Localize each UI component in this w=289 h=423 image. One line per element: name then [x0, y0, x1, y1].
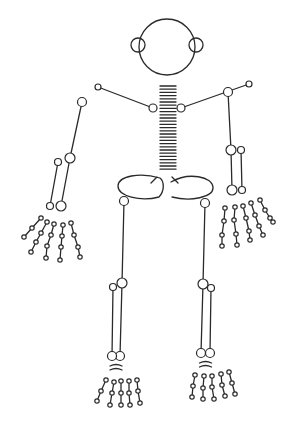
left-toe-joint-icon	[138, 401, 142, 405]
right-finger-joint-icon	[248, 238, 252, 242]
left-toe-joint-icon	[110, 391, 114, 395]
right-wrist-joint-icon	[227, 185, 237, 195]
left-toe-joint-icon	[95, 399, 99, 403]
left-finger-joint-icon	[30, 226, 34, 230]
right-toe-joint-icon	[220, 383, 224, 387]
right-finger-joint-icon	[258, 198, 262, 202]
right-finger-joint-icon	[261, 233, 265, 237]
right-finger-joint-icon	[233, 205, 237, 209]
right-ankle-joint-icon	[206, 349, 215, 358]
left-toe-joint-icon	[135, 378, 139, 382]
right-finger-joint-icon	[257, 224, 261, 228]
right-toe-joint-icon	[230, 381, 234, 385]
left-finger-joint-icon	[45, 244, 49, 248]
left-finger-joint-icon	[45, 220, 49, 224]
right-finger-joint-icon	[220, 233, 224, 237]
left-finger-joint-icon	[39, 231, 43, 235]
right-fibula	[210, 288, 211, 353]
right-toe-joint-icon	[191, 384, 195, 388]
left-finger-joint-icon	[72, 233, 76, 237]
right-radius	[231, 150, 232, 190]
right-finger-joint-icon	[271, 220, 275, 224]
right-finger-joint-icon	[220, 244, 224, 248]
right-finger-joint-icon	[253, 213, 257, 217]
right-finger-joint-icon	[244, 216, 248, 220]
right-ankle-joint-icon	[197, 349, 206, 358]
right-finger-joint-icon	[263, 208, 267, 212]
skeleton-drawing	[0, 0, 289, 423]
left-fibula	[112, 287, 113, 356]
ear-circle	[189, 38, 203, 52]
right-forearm-joint-icon	[238, 147, 245, 154]
left-ulna	[61, 158, 70, 206]
left-femur	[122, 201, 124, 283]
left-tibia	[120, 283, 122, 356]
left-finger-joint-icon	[52, 222, 56, 226]
pelvis	[118, 175, 213, 199]
left-finger-joint-icon	[61, 223, 65, 227]
right-toe-joint-icon	[219, 372, 223, 376]
right-upper-arm-joint-icon	[224, 88, 233, 97]
left-ankle-joint-icon	[108, 352, 117, 361]
left-finger-joint-icon	[69, 221, 73, 225]
left-finger-joint-icon	[34, 240, 38, 244]
right-humerus	[228, 92, 231, 150]
ears	[131, 38, 203, 52]
left-toe-joint-icon	[119, 403, 123, 407]
right-tarsal-arcs	[200, 362, 212, 368]
left-finger-joint-icon	[49, 233, 53, 237]
left-toe-joint-icon	[104, 378, 108, 382]
pelvis-right-lobe	[171, 176, 213, 199]
right-knee-joint-icon	[198, 279, 208, 289]
left-tarsal-arcs	[110, 365, 122, 371]
limbs	[22, 81, 275, 407]
right-shoulder-joint-icon	[246, 81, 252, 87]
right-clavicle-joint-icon	[177, 104, 185, 112]
right-finger-joint-icon	[223, 206, 227, 210]
left-wrist-joint-icon	[47, 203, 54, 210]
right-toe-joint-icon	[193, 373, 197, 377]
left-toe-joint-icon	[119, 391, 123, 395]
right-femur	[203, 203, 205, 284]
right-finger-joint-icon	[222, 219, 226, 223]
left-upper-arm-joint-icon	[78, 98, 87, 107]
left-radius	[50, 162, 58, 206]
skull-circle	[139, 19, 195, 75]
right-tibia	[201, 284, 203, 353]
left-fibula-joint-icon	[110, 284, 117, 291]
left-shoulder-joint-icon	[95, 84, 101, 90]
left-finger-joint-icon	[59, 245, 63, 249]
right-toe-joint-icon	[227, 370, 231, 374]
left-forearm-joint-icon	[55, 159, 62, 166]
left-wrist-joint-icon	[56, 201, 66, 211]
right-finger-joint-icon	[249, 201, 253, 205]
left-elbow-joint-icon	[65, 153, 75, 163]
right-finger-joint-icon	[235, 243, 239, 247]
left-toe-joint-icon	[128, 403, 132, 407]
left-clavicle-joint-icon	[149, 104, 157, 112]
ear-circle	[131, 38, 145, 52]
left-toe-joint-icon	[108, 403, 112, 407]
left-humerus	[70, 102, 82, 158]
left-toe-joint-icon	[127, 391, 131, 395]
head	[131, 19, 203, 75]
right-toe-joint-icon	[223, 394, 227, 398]
right-finger-joint-icon	[247, 229, 251, 233]
right-toe-joint-icon	[233, 392, 237, 396]
left-hip-joint-icon	[120, 197, 129, 206]
left-toe-joint-icon	[136, 389, 140, 393]
right-fibula-joint-icon	[208, 285, 215, 292]
right-ulna	[241, 150, 242, 190]
pelvis-left-lobe	[118, 175, 163, 199]
right-hip-joint-icon	[201, 199, 210, 208]
left-knee-joint-icon	[117, 278, 127, 288]
right-toe-joint-icon	[210, 385, 214, 389]
left-finger-joint-icon	[78, 255, 82, 259]
right-elbow-joint-icon	[226, 145, 236, 155]
left-finger-joint-icon	[44, 256, 48, 260]
left-toe-joint-icon	[99, 389, 103, 393]
left-finger-joint-icon	[58, 258, 62, 262]
right-toe-joint-icon	[210, 374, 214, 378]
right-finger-joint-icon	[232, 218, 236, 222]
left-toe-joint-icon	[112, 380, 116, 384]
